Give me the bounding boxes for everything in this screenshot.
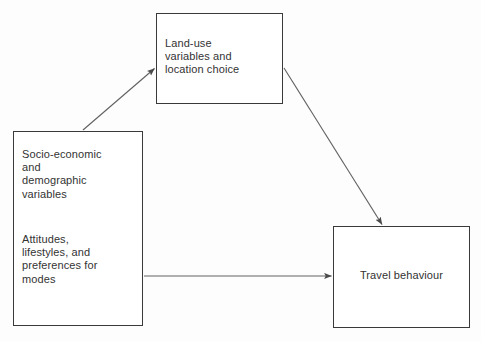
arrow-landuse-to-travel (284, 68, 382, 225)
node-label-land-use: Land-use variables and location choice (165, 37, 239, 77)
node-label-socio-demographic: Socio-economic and demographic variables (22, 148, 102, 201)
node-label-travel-behaviour: Travel behaviour (333, 269, 470, 282)
arrow-socio-to-landuse (83, 69, 155, 131)
diagram-canvas: Land-use variables and location choice S… (0, 0, 481, 342)
node-label-attitudes-preferences: Attitudes, lifestyles, and preferences f… (22, 233, 97, 286)
